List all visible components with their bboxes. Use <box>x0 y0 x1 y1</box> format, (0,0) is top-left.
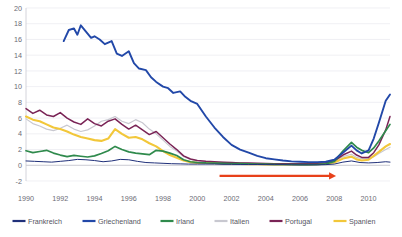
y-tick-label: 4 <box>18 129 22 138</box>
y-tick-label: -2 <box>16 177 22 186</box>
x-tick-label: 1998 <box>155 194 171 203</box>
y-tick-label: 6 <box>18 114 22 123</box>
x-tick-label: 1994 <box>87 194 103 203</box>
y-tick-label: 2 <box>18 145 22 154</box>
y-tick-label: 12 <box>14 67 22 76</box>
x-tick-label: 1996 <box>121 194 137 203</box>
x-tick-label: 2006 <box>292 194 308 203</box>
y-tick-label: 16 <box>14 35 22 44</box>
x-tick-label: 2010 <box>361 194 377 203</box>
y-tick-label: 20 <box>14 4 22 13</box>
legend-label-griechenland: Griechenland <box>98 217 141 226</box>
legend-label-portugal: Portugal <box>285 217 312 226</box>
y-tick-label: 10 <box>14 82 22 91</box>
x-tick-label: 2002 <box>224 194 240 203</box>
x-tick-label: 1992 <box>52 194 68 203</box>
y-tick-label: 8 <box>18 98 22 107</box>
chart-container: 20181614121086420-2 19901992199419961998… <box>0 0 402 237</box>
legend-label-frankreich: Frankreich <box>28 217 62 226</box>
y-tick-label: 14 <box>14 51 22 60</box>
x-tick-label: 2008 <box>326 194 342 203</box>
line-chart: 20181614121086420-2 19901992199419961998… <box>0 0 402 237</box>
x-tick-label: 2004 <box>258 194 274 203</box>
y-tick-label: 0 <box>18 161 22 170</box>
legend-label-italien: Italien <box>230 217 249 226</box>
legend-label-spanien: Spanien <box>349 217 375 226</box>
x-tick-label: 1990 <box>18 194 34 203</box>
y-tick-label: 18 <box>14 19 22 28</box>
x-tick-label: 2000 <box>189 194 205 203</box>
legend-label-irland: Irland <box>176 217 194 226</box>
